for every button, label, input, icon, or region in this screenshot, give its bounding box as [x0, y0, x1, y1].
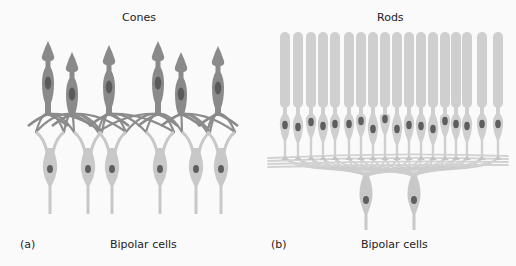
rod-cell	[477, 32, 487, 160]
rod-cell	[380, 32, 390, 160]
rod-cell	[306, 32, 316, 160]
bipolar-cells-a	[36, 132, 235, 214]
bipolar-cells-b	[359, 176, 420, 230]
rod-cells	[280, 32, 503, 160]
cone-pathway-illustration	[0, 0, 258, 266]
panel-b-rods: Rods (b) Bipolar cells	[258, 0, 516, 266]
cone-cell	[198, 46, 238, 126]
rod-cell	[451, 32, 461, 160]
rod-pathway-illustration	[258, 0, 516, 266]
panel-a-letter: (a)	[20, 238, 35, 251]
panel-a-bipolar-label: Bipolar cells	[110, 238, 177, 251]
rod-cell	[318, 32, 328, 160]
rod-cell	[280, 32, 290, 160]
rod-cell	[293, 32, 303, 160]
bipolar-cell	[182, 132, 210, 214]
bipolar-cell	[146, 132, 174, 214]
bipolar-cell	[359, 176, 372, 230]
bipolar-cell	[98, 132, 126, 214]
panel-b-letter: (b)	[271, 238, 287, 251]
cone-cell	[28, 41, 68, 126]
bipolar-cell	[74, 132, 102, 214]
rod-bipolar-connections	[268, 154, 508, 178]
rod-cell	[493, 32, 503, 160]
rod-cell	[404, 32, 414, 160]
bipolar-cell	[207, 132, 235, 214]
rod-cell	[440, 32, 450, 160]
rod-cell	[344, 32, 354, 160]
rod-cell	[416, 32, 426, 160]
rod-cell	[330, 32, 340, 160]
rod-cell	[462, 32, 472, 160]
panel-a-cones: Cones (a) Bipolar cells	[0, 0, 258, 266]
rod-cell	[428, 32, 438, 160]
panel-b-bipolar-label: Bipolar cells	[361, 238, 428, 251]
rod-cell	[392, 32, 402, 160]
rod-cell	[356, 32, 366, 160]
panel-a-title: Cones	[122, 11, 156, 24]
rod-cell	[368, 32, 378, 160]
bipolar-cell	[36, 132, 64, 214]
panel-b-title: Rods	[377, 11, 404, 24]
bipolar-cell	[407, 176, 420, 230]
